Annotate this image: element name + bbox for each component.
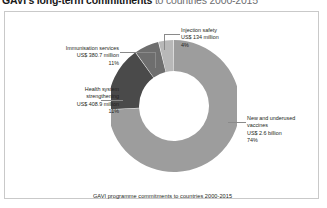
callout-health-system-amount: US$ 408.9 million xyxy=(19,101,119,108)
callout-injection-safety: Injection safety US$ 134 million 4% xyxy=(181,27,219,49)
page-heading-strip: GAVI's long-term commitments to countrie… xyxy=(0,0,327,8)
callout-injection-safety-percent: 4% xyxy=(181,42,219,49)
callout-new-underused-vaccines: New and underused vaccines US$ 2.6 billi… xyxy=(247,115,295,145)
callout-immunisation-services-percent: 11% xyxy=(37,60,119,67)
leader-line-injection-vertical xyxy=(164,34,165,50)
callout-immunisation-services: Immunisation services US$ 380.7 million … xyxy=(37,45,119,67)
callout-new-vaccines-percent: 74% xyxy=(247,137,295,144)
callout-injection-safety-amount: US$ 134 million xyxy=(181,34,219,41)
callout-injection-safety-name: Injection safety xyxy=(181,27,219,34)
callout-immunisation-services-name: Immunisation services xyxy=(37,45,119,52)
callout-health-system-name-line2: strengthening xyxy=(19,93,119,100)
donut-chart xyxy=(111,36,237,176)
callout-immunisation-services-amount: US$ 380.7 million xyxy=(37,52,119,59)
callout-health-system-percent: 11% xyxy=(19,108,119,115)
callout-new-vaccines-name-line1: New and underused xyxy=(247,115,295,122)
page-title-sub: to countries 2000-2015 xyxy=(155,0,258,6)
donut-chart-svg xyxy=(111,36,237,176)
chart-panel: Injection safety US$ 134 million 4% Immu… xyxy=(4,11,319,199)
page-title: GAVI's long-term commitments to countrie… xyxy=(2,0,258,6)
callout-new-vaccines-amount: US$ 2.6 billion xyxy=(247,130,295,137)
chart-caption: GAVI programme commitments to countries … xyxy=(5,193,320,199)
callout-new-vaccines-name-line2: vaccines xyxy=(247,122,295,129)
leader-line-vaccines-horizontal xyxy=(228,122,246,123)
callout-health-system-strengthening: Health system strengthening US$ 408.9 mi… xyxy=(19,86,119,116)
leader-line-immunisation-horizontal xyxy=(120,52,156,53)
leader-line-injection-horizontal xyxy=(164,34,180,35)
leader-line-immunisation-vertical xyxy=(155,52,156,68)
callout-health-system-name-line1: Health system xyxy=(19,86,119,93)
page-title-main: GAVI's long-term commitments xyxy=(2,0,152,6)
